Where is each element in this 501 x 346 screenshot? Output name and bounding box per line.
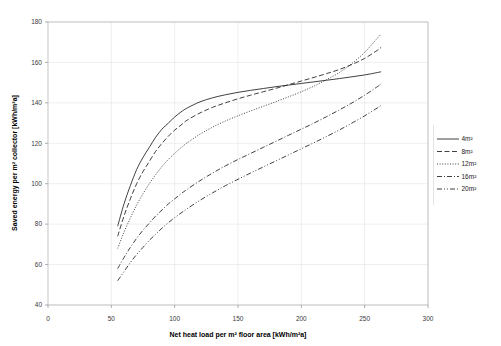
x-axis-title: Net heat load per m² floor area [kWh/m²a…	[170, 331, 307, 339]
y-axis-title: Saved energy per m² collector [kWh/m²a]	[11, 95, 19, 231]
chart-figure: 406080100120140160180 050100150200250300…	[0, 0, 501, 346]
x-tick-label: 150	[233, 315, 244, 322]
legend-label-4m2: 4m²	[462, 135, 474, 142]
legend-label-16m2: 16m²	[462, 173, 478, 180]
y-tick-label: 40	[35, 301, 43, 308]
y-tick-label: 100	[31, 180, 42, 187]
x-tick-label: 250	[359, 315, 370, 322]
y-tick-label: 80	[35, 220, 43, 227]
legend-label-12m2: 12m²	[462, 160, 478, 167]
x-tick-label: 50	[108, 315, 116, 322]
y-tick-label: 160	[31, 59, 42, 66]
legend-label-20m2: 20m²	[462, 185, 478, 192]
x-tick-label: 100	[169, 315, 180, 322]
y-tick-label: 140	[31, 99, 42, 106]
x-tick-label: 300	[423, 315, 434, 322]
x-tick-label: 0	[46, 315, 50, 322]
legend-label-8m2: 8m²	[462, 148, 474, 155]
y-tick-label: 120	[31, 140, 42, 147]
y-tick-label: 180	[31, 18, 42, 25]
y-tick-label: 60	[35, 261, 43, 268]
x-tick-label: 200	[296, 315, 307, 322]
